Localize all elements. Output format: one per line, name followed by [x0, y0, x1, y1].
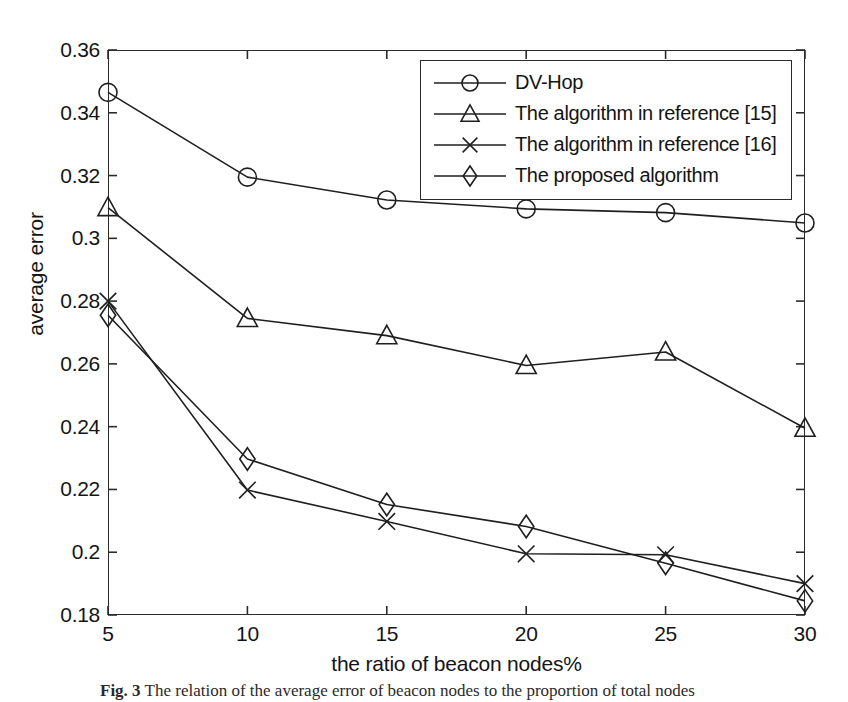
y-tick-label: 0.18: [60, 603, 100, 627]
y-tick-label: 0.28: [60, 289, 100, 313]
y-axis-title: average error: [24, 212, 47, 335]
y-tick-label: 0.3: [72, 226, 100, 250]
legend-item: The proposed algorithm: [421, 160, 791, 191]
y-tick-label: 0.26: [60, 352, 100, 376]
caption-text: The relation of the average error of bea…: [141, 681, 695, 700]
legend-item: The algorithm in reference [16]: [421, 129, 791, 160]
legend-item-label: DV-Hop: [515, 71, 583, 94]
y-tick-label: 0.36: [60, 38, 100, 62]
circle-marker: [431, 71, 509, 95]
legend-item: DV-Hop: [421, 67, 791, 98]
x-tick-label: 10: [236, 622, 259, 646]
x-tick-label: 25: [654, 622, 677, 646]
figure-container: 0.180.20.220.240.260.280.30.320.340.36 t…: [0, 0, 848, 702]
y-tick-label: 0.2: [72, 540, 100, 564]
y-tick-label: 0.24: [60, 415, 100, 439]
legend-item-label: The algorithm in reference [15]: [515, 102, 777, 125]
cross-marker: [431, 133, 509, 157]
y-axis-title-wrapper: average error: [24, 174, 48, 374]
y-tick-label: 0.34: [60, 101, 100, 125]
x-axis-title: the ratio of beacon nodes%: [108, 652, 805, 676]
triangle-marker: [431, 102, 509, 126]
chart-legend: DV-HopThe algorithm in reference [15]The…: [420, 60, 792, 200]
x-tick-label: 5: [102, 622, 113, 646]
legend-item-label: The algorithm in reference [16]: [515, 133, 777, 156]
diamond-marker: [431, 164, 509, 188]
x-tick-label: 15: [375, 622, 398, 646]
y-tick-label: 0.32: [60, 164, 100, 188]
figure-caption: Fig. 3 The relation of the average error…: [100, 681, 800, 702]
legend-item-label: The proposed algorithm: [515, 164, 719, 187]
caption-label: Fig. 3: [100, 681, 141, 700]
y-tick-label: 0.22: [60, 477, 100, 501]
x-tick-label: 20: [515, 622, 538, 646]
x-tick-label: 30: [794, 622, 817, 646]
y-axis-tick-labels: 0.180.20.220.240.260.280.30.320.340.36: [0, 0, 100, 702]
legend-item: The algorithm in reference [15]: [421, 98, 791, 129]
